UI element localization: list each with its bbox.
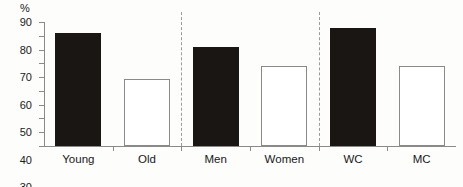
bar-chart: % 0102030405060708090 YoungOldMenWomenWC… xyxy=(0,0,463,187)
y-tick-label-60: 60 xyxy=(20,99,32,110)
bar-young xyxy=(55,33,101,146)
bar-wc xyxy=(330,28,376,146)
y-tick-40: 40 xyxy=(39,91,44,92)
y-tick-label-40: 40 xyxy=(20,154,32,165)
category-label-men: Men xyxy=(204,154,226,166)
x-tick-1 xyxy=(113,146,114,151)
bar-men xyxy=(193,47,239,146)
y-tick-80: 80 xyxy=(39,36,44,37)
y-tick-30: 30 xyxy=(39,105,44,106)
category-label-mc: MC xyxy=(413,154,431,166)
y-tick-0: 0 xyxy=(39,146,44,147)
bar-mc xyxy=(399,66,445,146)
group-divider-2 xyxy=(319,12,320,146)
y-tick-label-50: 50 xyxy=(20,127,32,138)
y-axis-line xyxy=(44,22,45,146)
x-tick-5 xyxy=(387,146,388,151)
y-tick-label-30: 30 xyxy=(20,182,32,187)
group-divider-1 xyxy=(181,12,182,146)
y-tick-label-70: 70 xyxy=(20,72,32,83)
category-label-old: Old xyxy=(138,154,156,166)
y-tick-label-90: 90 xyxy=(20,17,32,28)
x-tick-2 xyxy=(181,146,182,151)
plot-area: 0102030405060708090 YoungOldMenWomenWCMC xyxy=(44,22,456,146)
y-tick-50: 50 xyxy=(39,77,44,78)
category-label-young: Young xyxy=(62,154,94,166)
y-axis-unit-label: % xyxy=(20,2,30,14)
y-tick-20: 20 xyxy=(39,118,44,119)
bar-old xyxy=(124,79,170,147)
y-tick-label-80: 80 xyxy=(20,44,32,55)
x-tick-4 xyxy=(319,146,320,151)
y-tick-60: 60 xyxy=(39,63,44,64)
y-tick-10: 10 xyxy=(39,132,44,133)
category-label-wc: WC xyxy=(343,154,362,166)
bar-women xyxy=(261,66,307,146)
y-tick-90: 90 xyxy=(39,22,44,23)
category-label-women: Women xyxy=(265,154,304,166)
x-tick-3 xyxy=(250,146,251,151)
y-tick-70: 70 xyxy=(39,50,44,51)
